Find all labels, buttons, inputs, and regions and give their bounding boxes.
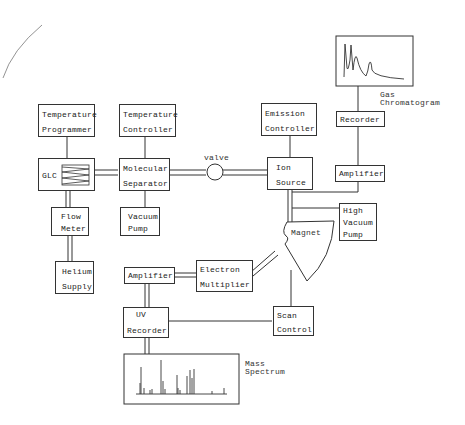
block-label: Emission: [265, 109, 305, 118]
mass-spectrum-label-line2: Spectrum: [245, 367, 285, 376]
block-label: Recorder: [127, 326, 167, 335]
gas-chromatogram-label-line2: Chromatogram: [380, 98, 440, 107]
block-label: Recorder: [340, 115, 380, 124]
block-label: Multiplier: [200, 280, 250, 289]
valve-label: valve: [204, 153, 229, 162]
valve-icon: [207, 164, 223, 180]
block-label: Ion: [276, 163, 291, 172]
block-label: Amplifier: [339, 169, 384, 178]
block-label: Programmer: [42, 125, 92, 134]
high-vacuum-pump-block: High Vacuum Pump: [339, 203, 377, 241]
decorative-arc: [3, 25, 42, 78]
helium-supply-block: Helium Supply: [55, 261, 94, 294]
block-label: Temperature: [123, 110, 178, 119]
block-label: High: [343, 206, 363, 215]
block-label: Separator: [123, 179, 168, 188]
molecular-separator-block: Molecular Separator: [119, 158, 170, 191]
block-label: Vacuum: [343, 218, 373, 227]
magnet-label: Magnet: [291, 228, 321, 237]
temperature-programmer-block: Temperature Programmer: [38, 104, 95, 137]
amplifier-bottom-block: Amplifier: [124, 267, 175, 284]
block-label: Molecular: [123, 164, 168, 173]
temperature-controller-block: Temperature Controller: [119, 104, 176, 137]
amplifier-top-block: Amplifier: [335, 165, 385, 182]
block-label: Supply: [62, 282, 92, 291]
block-label: Helium: [62, 267, 92, 276]
electron-multiplier-block: Electron Multiplier: [196, 260, 253, 292]
gcms-diagram: Temperature Programmer Temperature Contr…: [0, 0, 465, 425]
uv-recorder-block: UV Recorder: [123, 307, 169, 338]
recorder-block: Recorder: [336, 111, 385, 127]
block-label: Amplifier: [128, 271, 173, 280]
scan-control-block: Scan Control: [273, 306, 314, 336]
block-label: Vacuum: [128, 212, 158, 221]
block-label: Pump: [128, 224, 148, 233]
emission-controller-block: Emission Controller: [261, 103, 317, 136]
block-label: Scan: [277, 311, 297, 320]
block-label: Meter: [61, 224, 86, 233]
block-label: Controller: [123, 125, 173, 134]
block-label: Source: [276, 178, 306, 187]
ion-source-block: Ion Source: [267, 157, 313, 190]
flow-meter-block: Flow Meter: [51, 207, 89, 236]
block-label: Control: [277, 325, 312, 334]
block-label: Pump: [343, 230, 363, 239]
block-label: Temperature: [42, 110, 97, 119]
block-label: UV: [136, 310, 146, 319]
block-label: Flow: [61, 212, 81, 221]
block-label: Controller: [265, 124, 315, 133]
vacuum-pump-block: Vacuum Pump: [120, 207, 160, 236]
block-label: Electron: [200, 265, 240, 274]
glc-block: GLC: [38, 158, 95, 191]
block-label: GLC: [42, 171, 57, 180]
